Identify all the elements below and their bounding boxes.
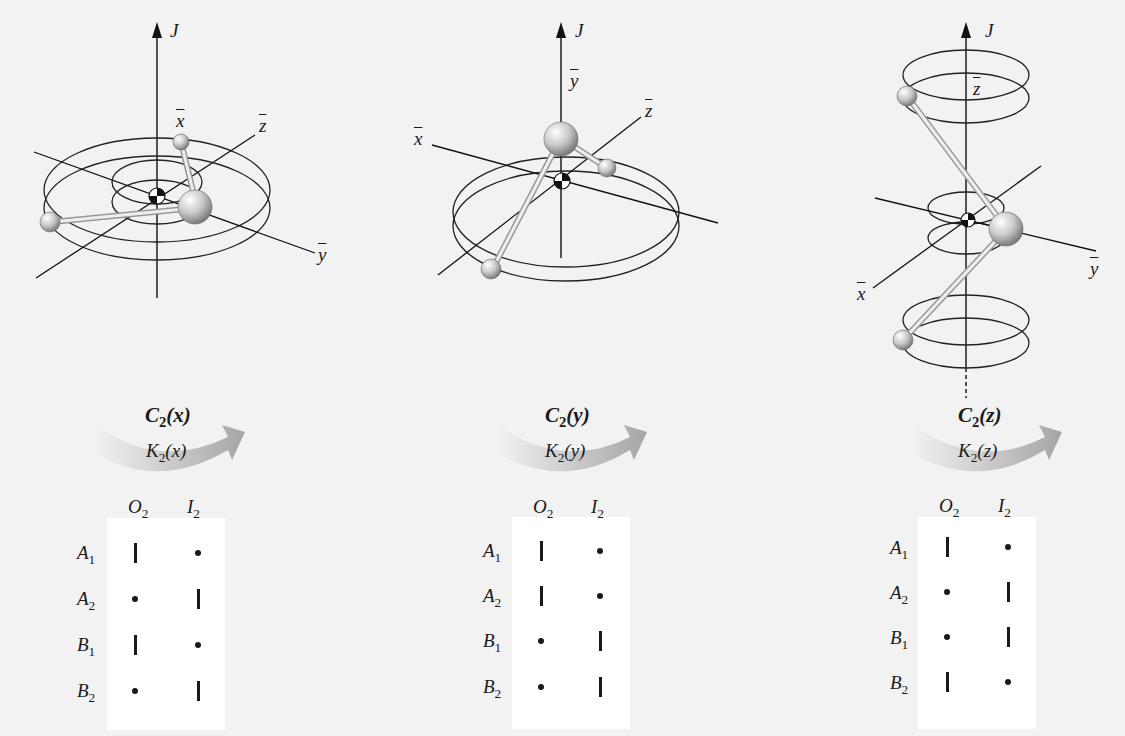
- correlation-table-y: [512, 517, 630, 729]
- j-axis-arrow-icon: [556, 22, 566, 38]
- axis-label-j: J: [575, 20, 583, 42]
- operation-label-z: C2(z): [958, 403, 1002, 431]
- operation-label-x: C2(x): [145, 403, 191, 431]
- atom-large: [989, 212, 1023, 246]
- axis-label-y: y: [1090, 258, 1098, 280]
- atom-small: [173, 134, 189, 150]
- column-header: O2: [533, 496, 553, 522]
- correlation-bar-icon: [1007, 582, 1010, 602]
- k-label-y: K2(y): [545, 440, 585, 466]
- atom-small: [481, 259, 501, 279]
- correlation-bar-icon: [1007, 627, 1010, 647]
- row-label: B2: [890, 672, 908, 698]
- atom-small: [40, 212, 60, 232]
- row-label: B1: [890, 627, 908, 653]
- atom-small: [598, 159, 616, 177]
- correlation-dot-icon: [597, 593, 603, 599]
- axis-label-z: z: [973, 78, 980, 100]
- correlation-bar-icon: [599, 677, 602, 697]
- column-header: I2: [187, 496, 200, 522]
- axis-label-j: J: [985, 20, 993, 42]
- correlation-dot-icon: [944, 634, 950, 640]
- correlation-dot-icon: [1005, 679, 1011, 685]
- center-of-mass-icon: [149, 188, 165, 204]
- k-label-x: K2(x): [146, 440, 186, 466]
- row-label: A1: [890, 537, 908, 563]
- row-label: B2: [77, 680, 95, 706]
- row-label: A1: [77, 542, 95, 568]
- axis-label-z: z: [259, 115, 266, 137]
- center-of-mass-icon: [554, 173, 570, 189]
- correlation-dot-icon: [538, 684, 544, 690]
- j-axis-arrow-icon: [961, 22, 971, 38]
- row-label: A2: [77, 588, 95, 614]
- correlation-table-x: [107, 518, 225, 730]
- correlation-dot-icon: [538, 638, 544, 644]
- correlation-dot-icon: [944, 589, 950, 595]
- column-header: O2: [128, 496, 148, 522]
- column-header: I2: [998, 495, 1011, 521]
- correlation-bar-icon: [134, 635, 137, 655]
- correlation-dot-icon: [132, 596, 138, 602]
- panel-y-drawing: [432, 22, 718, 281]
- correlation-bar-icon: [946, 672, 949, 692]
- row-label: A2: [890, 582, 908, 608]
- atom-large: [178, 190, 212, 224]
- figure-canvas: J x z y J y z x J z y x C2(x) K2(x) C2(y…: [0, 0, 1125, 736]
- row-label: B1: [483, 630, 501, 656]
- correlation-bar-icon: [197, 589, 200, 609]
- correlation-dot-icon: [1005, 544, 1011, 550]
- correlation-dot-icon: [597, 548, 603, 554]
- operation-label-y: C2(y): [545, 403, 590, 431]
- correlation-table-z: [918, 517, 1036, 729]
- atom-small: [897, 86, 917, 106]
- column-header: I2: [591, 496, 604, 522]
- axis-label-y: y: [318, 244, 326, 266]
- center-of-mass-icon: [961, 213, 975, 227]
- axis-label-j: J: [170, 20, 178, 42]
- row-label: B2: [483, 676, 501, 702]
- panel-x-drawing: [34, 22, 315, 298]
- correlation-dot-icon: [195, 550, 201, 556]
- correlation-bar-icon: [540, 541, 543, 561]
- atom-large: [544, 122, 578, 156]
- correlation-bar-icon: [134, 543, 137, 563]
- axis-label-x: x: [414, 128, 422, 150]
- row-label: A1: [483, 540, 501, 566]
- panel-z-drawing: [873, 22, 1096, 398]
- correlation-bar-icon: [540, 586, 543, 606]
- correlation-bar-icon: [197, 681, 200, 701]
- k-label-z: K2(z): [958, 440, 997, 466]
- row-label: B1: [77, 634, 95, 660]
- correlation-bar-icon: [599, 631, 602, 651]
- column-header: O2: [939, 495, 959, 521]
- atom-small: [893, 330, 913, 350]
- correlation-bar-icon: [946, 537, 949, 557]
- correlation-dot-icon: [195, 642, 201, 648]
- axis-label-z: z: [645, 100, 652, 122]
- axis-label-x: x: [857, 283, 865, 305]
- axis-label-y: y: [570, 70, 578, 92]
- row-label: A2: [483, 585, 501, 611]
- j-axis-arrow-icon: [152, 22, 162, 38]
- axis-label-x: x: [176, 110, 184, 132]
- correlation-dot-icon: [132, 688, 138, 694]
